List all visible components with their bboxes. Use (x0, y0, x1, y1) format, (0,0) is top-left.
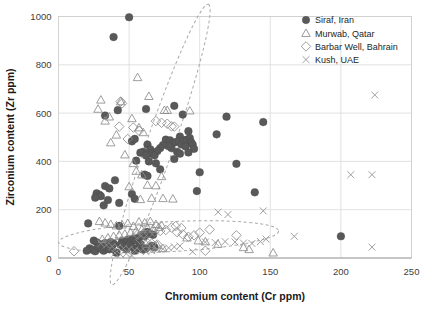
y-tick-label: 0 (46, 253, 51, 264)
data-point (110, 33, 118, 41)
data-point (142, 105, 150, 113)
scatter-chart: 02004006008001000 050100150200250 Chromi… (0, 0, 437, 312)
legend-marker (302, 16, 309, 23)
data-point (251, 188, 259, 196)
y-tick-label: 600 (36, 108, 52, 119)
x-tick-label: 50 (124, 266, 135, 277)
data-point (115, 199, 123, 207)
data-point (111, 176, 119, 184)
x-axis-title: Chromium content (Cr ppm) (165, 290, 305, 302)
data-point (105, 185, 113, 193)
data-point (145, 158, 153, 166)
x-tick-label: 150 (262, 266, 278, 277)
legend-label: Siraf, Iran (315, 15, 354, 25)
chart-canvas: 02004006008001000 050100150200250 Chromi… (0, 0, 437, 312)
data-point (156, 166, 164, 174)
data-point (170, 102, 178, 110)
data-point (233, 160, 241, 168)
data-point (193, 187, 201, 195)
data-point (196, 168, 204, 176)
data-point (185, 149, 193, 157)
data-point (151, 152, 159, 160)
data-point (114, 106, 122, 114)
data-point (91, 194, 99, 202)
y-tick-label: 800 (36, 59, 52, 70)
x-tick-label: 0 (56, 266, 61, 277)
data-point (176, 150, 184, 158)
data-point (259, 118, 267, 126)
x-tick-label: 100 (192, 266, 208, 277)
data-point (223, 113, 231, 121)
y-tick-label: 400 (36, 156, 52, 167)
data-point (185, 127, 193, 135)
y-axis-title: Zirconium content (Zr ppm) (4, 68, 16, 205)
data-point (125, 13, 133, 21)
data-point (179, 111, 187, 119)
x-tick-label: 200 (333, 266, 349, 277)
legend-label: Kush, UAE (315, 55, 359, 65)
data-point (213, 131, 221, 139)
data-point (84, 220, 92, 228)
y-tick-label: 1000 (30, 11, 51, 22)
legend-label: Murwab, Qatar (315, 29, 375, 39)
y-tick-label: 200 (36, 204, 52, 215)
data-point (337, 232, 345, 240)
data-point (83, 247, 91, 255)
legend-label: Barbar Well, Bahrain (315, 42, 398, 52)
data-point (131, 195, 139, 203)
data-point (100, 202, 108, 210)
x-tick-label: 250 (404, 266, 420, 277)
